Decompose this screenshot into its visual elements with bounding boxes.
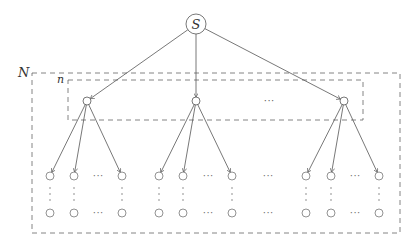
vertical-dot [378,199,379,200]
vertical-dot [231,193,232,194]
leaf-node-top [118,172,126,180]
vertical-dot [49,193,50,194]
leaf-node-bottom [302,209,310,217]
level1-node [340,97,348,105]
leaf-node-bottom [228,209,236,217]
edge-root-to-level1 [205,29,341,100]
vertical-dot [231,199,232,200]
leaf-node-top [327,172,335,180]
vertical-dot [231,187,232,188]
vertical-dot [330,199,331,200]
inner-box-label: n [57,73,64,86]
vertical-dot [305,187,306,188]
vertical-dot [49,199,50,200]
vertical-dot [121,199,122,200]
edge-level1-to-leaf [308,105,342,173]
row-ellipsis: ··· [350,169,361,181]
vertical-dot [330,187,331,188]
edge-level1-to-leaf [332,105,344,172]
level1-node [83,97,91,105]
row-ellipsis: ··· [203,169,214,181]
vertical-dot [330,193,331,194]
vertical-dot [121,187,122,188]
leaf-node-top [179,172,187,180]
vertical-dot [73,193,74,194]
vertical-dot [121,193,122,194]
vertical-dot [378,193,379,194]
level1-node [192,97,200,105]
vertical-dot [158,187,159,188]
level1-ellipsis: ··· [264,94,275,106]
leaf-node-bottom [375,209,383,217]
leaf-node-top [70,172,78,180]
leaf-node-bottom [118,209,126,217]
edge-root-to-level1 [90,30,188,99]
row-ellipsis: ··· [350,206,361,218]
vertical-dot [182,193,183,194]
group-ellipsis: ··· [263,169,274,181]
leaf-node-top [155,172,163,180]
vertical-dot [158,199,159,200]
row-ellipsis: ··· [203,206,214,218]
vertical-dot [73,187,74,188]
vertical-dot [182,187,183,188]
leaf-node-bottom [46,209,54,217]
leaf-node-top [46,172,54,180]
leaf-node-top [302,172,310,180]
vertical-dot [182,199,183,200]
group-ellipsis: ··· [263,206,274,218]
vertical-dot [73,199,74,200]
vertical-dot [305,193,306,194]
edge-level1-to-leaf [346,105,378,173]
edge-level1-to-leaf [198,105,231,173]
outer-box-label: N [17,65,30,80]
inner-box-n [68,80,363,120]
leaf-node-top [375,172,383,180]
leaf-node-bottom [179,209,187,217]
root-label: S [192,17,201,32]
vertical-dot [158,193,159,194]
leaf-node-bottom [327,209,335,217]
edge-level1-to-leaf [89,105,121,173]
row-ellipsis: ··· [93,169,104,181]
leaf-node-top [228,172,236,180]
leaf-node-bottom [70,209,78,217]
vertical-dot [49,187,50,188]
leaf-node-bottom [155,209,163,217]
vertical-dot [305,199,306,200]
vertical-dot [378,187,379,188]
diagram-canvas: NnS··························· [0,0,415,249]
row-ellipsis: ··· [93,206,104,218]
